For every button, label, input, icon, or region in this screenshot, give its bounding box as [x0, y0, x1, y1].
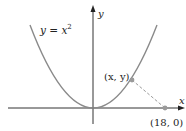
- curve-label: y = x2: [39, 23, 72, 36]
- fixed-point-label: (18, 0): [150, 117, 183, 128]
- distance-segment: [132, 80, 165, 108]
- x-axis-label: x: [179, 95, 185, 106]
- point-label: (x, y): [104, 71, 130, 82]
- y-axis-arrow-icon: [91, 5, 96, 12]
- point-on-curve: [130, 78, 135, 83]
- y-axis-label: y: [97, 8, 104, 19]
- parabola-diagram: y = x2 y x (x, y) (18, 0): [0, 0, 186, 131]
- fixed-point: [163, 106, 168, 111]
- x-axis-arrow-icon: [178, 106, 185, 111]
